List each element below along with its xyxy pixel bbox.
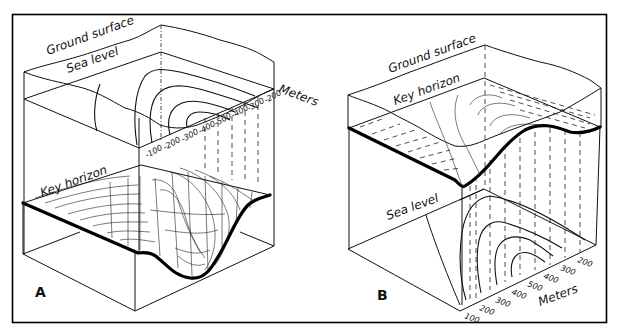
- panel-b-key-horizon-edge: [349, 126, 600, 187]
- panel-a-label: A: [35, 284, 46, 300]
- svg-text:-200: -200: [162, 135, 182, 151]
- svg-text:200: 200: [576, 255, 593, 269]
- svg-text:500: 500: [526, 279, 543, 293]
- svg-text:400: 400: [510, 287, 527, 301]
- svg-text:-300: -300: [180, 127, 200, 143]
- block-diagram-figure: -200 -300 -400 -500 -400 -300 -200 -100 …: [0, 0, 620, 335]
- svg-text:300: 300: [559, 263, 576, 277]
- panel-b-ground-surface: [348, 45, 601, 95]
- svg-text:300: 300: [494, 295, 511, 309]
- panel-a-depth-ticks: -200 -300 -400 -500 -400 -300 -200 -100: [144, 88, 283, 159]
- panel-b-ground-surface-label: Ground surface: [386, 31, 478, 76]
- svg-text:400: 400: [542, 271, 559, 285]
- panel-a-sea-level-contours: [95, 84, 100, 131]
- panel-a-ground-surface-label: Ground surface: [44, 13, 136, 58]
- panel-a-meters-label: Meters: [277, 82, 320, 109]
- svg-text:-400: -400: [230, 103, 250, 119]
- figure-canvas: -200 -300 -400 -500 -400 -300 -200 -100 …: [0, 0, 620, 335]
- panel-b: Key horizon Ground surface 100 200 30: [348, 31, 601, 325]
- panel-b-label: B: [377, 287, 388, 303]
- svg-text:200: 200: [478, 303, 495, 317]
- panel-a-key-horizon-label: Key horizon: [38, 163, 109, 200]
- svg-text:-100: -100: [144, 143, 164, 159]
- panel-b-key-horizon-plane: [349, 78, 600, 128]
- panel-b-sea-level-label: Sea level: [384, 191, 441, 223]
- panel-a: -200 -300 -400 -500 -400 -300 -200 -100 …: [23, 13, 320, 311]
- panel-b-key-horizon-label: Key horizon: [391, 71, 462, 108]
